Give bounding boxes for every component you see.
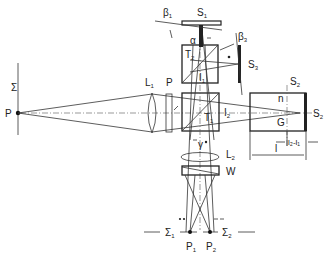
ray	[202, 30, 214, 140]
image-point-p1	[188, 230, 192, 234]
mirror-s1	[182, 21, 221, 25]
label-p: P	[5, 108, 12, 119]
label-s3: S3	[248, 59, 259, 71]
label-s1: S1	[197, 7, 208, 19]
label-sigma2p: Σ2	[222, 227, 232, 239]
ray	[190, 64, 238, 72]
tick-mark	[174, 106, 178, 110]
ray	[205, 175, 210, 232]
label-alpha: α	[190, 35, 196, 46]
image-point-p2	[208, 230, 212, 234]
ray	[190, 175, 195, 232]
label-w: W	[226, 166, 236, 177]
label-l2: L2	[226, 149, 236, 161]
dot-marker	[205, 141, 207, 143]
mirror-s1-stem	[199, 25, 203, 47]
label-i2: I2	[224, 107, 231, 119]
label-l1: L1	[145, 77, 155, 89]
prism-diagonal	[182, 167, 219, 174]
ray	[190, 175, 215, 232]
optical-diagram: Σ P L1 P T1 T2 I1 S1 β1 α S3 β3 I2	[0, 0, 327, 258]
ray	[185, 175, 210, 232]
label-plate-p: P	[166, 77, 173, 88]
ray	[18, 94, 152, 113]
dot-marker	[183, 218, 185, 220]
mirror-s2	[304, 93, 307, 131]
label-beta3: β3	[238, 31, 248, 43]
label-l2-l1: l₂-l₁	[288, 138, 300, 147]
label-l: l	[275, 143, 277, 154]
label-sigma1p: Σ1	[165, 227, 175, 239]
dot-marker	[228, 56, 231, 59]
ray	[186, 45, 193, 232]
label-t2: T2	[185, 49, 195, 61]
label-sigma: Σ	[11, 82, 17, 93]
arrow-beta1	[170, 30, 172, 38]
ray	[18, 113, 152, 132]
label-p2p: P2	[206, 241, 217, 253]
label-s2p: S2	[290, 76, 301, 88]
label-gamma: γ	[198, 139, 203, 150]
arrow-beta3	[220, 44, 234, 50]
label-s2: S2	[313, 108, 324, 120]
label-n: n	[278, 93, 284, 104]
ray	[190, 60, 238, 64]
label-g: G	[277, 117, 285, 128]
label-beta1: β1	[163, 7, 173, 19]
label-p1p: P1	[186, 241, 197, 253]
dot-marker	[179, 218, 181, 220]
